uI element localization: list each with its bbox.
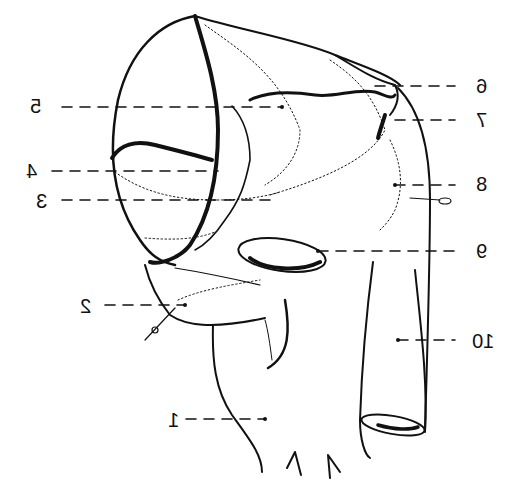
label-9: 9 [476,241,487,261]
label-7: 7 [476,110,487,130]
label-4: 4 [26,161,37,181]
diagram-drawing [0,0,519,502]
label-8: 8 [476,174,487,194]
label-2: 2 [80,296,91,316]
label-1: 1 [168,410,179,430]
label-6: 6 [476,76,487,96]
label-10: 10 [472,331,494,351]
label-5: 5 [30,96,41,116]
label-3: 3 [36,191,47,211]
anatomical-diagram: 1 2 3 4 5 6 7 8 9 10 [0,0,519,502]
